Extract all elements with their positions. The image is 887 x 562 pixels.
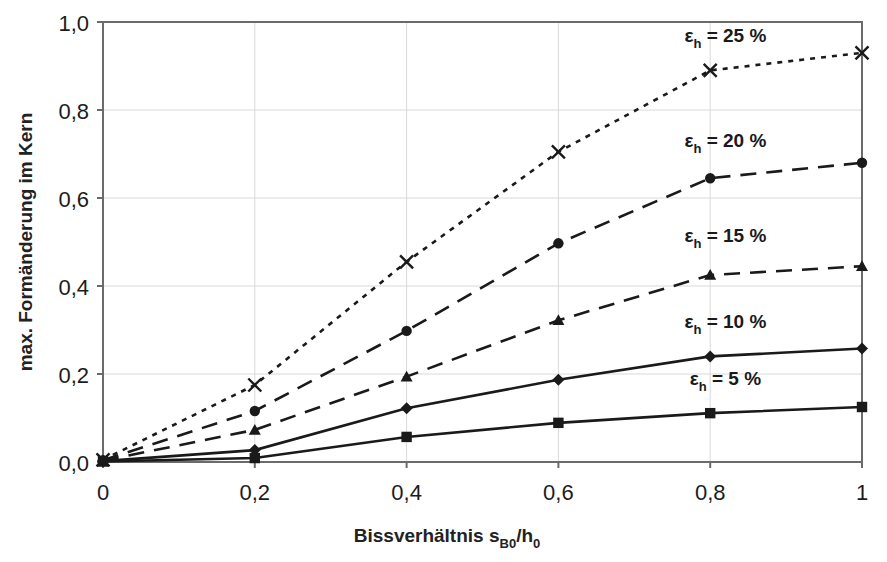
- x-tick-label: 0,4: [391, 480, 422, 505]
- x-axis-title: Bissverhältnis sB0/h0: [354, 525, 541, 551]
- y-tick-label: 0,6: [58, 187, 89, 212]
- data-point-marker-square: [401, 432, 411, 442]
- x-tick-label: 0,6: [543, 480, 574, 505]
- data-point-marker-square: [98, 456, 108, 466]
- y-tick-label: 1,0: [58, 11, 89, 36]
- chart-figure: 1,0 0,8 0,6 0,4 0,2 0,0 0 0,2 0,4 0,6 0,…: [0, 0, 887, 562]
- data-point-marker-circle: [705, 173, 715, 183]
- y-tick-label: 0,4: [58, 275, 89, 300]
- data-point-marker-circle: [401, 326, 411, 336]
- x-tick-label: 1: [856, 480, 868, 505]
- data-point-marker-circle: [553, 238, 563, 248]
- y-tick-label: 0,8: [58, 99, 89, 124]
- data-point-marker-square: [857, 402, 867, 412]
- data-point-marker-circle: [857, 158, 867, 168]
- y-tick-label: 0,0: [58, 451, 89, 476]
- data-point-marker-square: [705, 408, 715, 418]
- y-tick-label: 0,2: [58, 363, 89, 388]
- x-tick-label: 0,8: [695, 480, 726, 505]
- data-point-marker-square: [553, 418, 563, 428]
- data-point-marker-square: [250, 453, 260, 463]
- x-axis-tick-labels: 0 0,2 0,4 0,6 0,8 1: [97, 480, 868, 505]
- data-point-marker-circle: [250, 406, 260, 416]
- x-tick-label: 0: [97, 480, 109, 505]
- y-axis-tick-labels: 1,0 0,8 0,6 0,4 0,2 0,0: [58, 11, 89, 476]
- x-tick-label: 0,2: [240, 480, 271, 505]
- chart-canvas: 1,0 0,8 0,6 0,4 0,2 0,0 0 0,2 0,4 0,6 0,…: [0, 0, 887, 562]
- y-axis-title: max. Formänderung im Kern: [15, 113, 36, 372]
